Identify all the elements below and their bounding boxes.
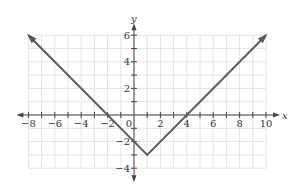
y-tick-label: −2 — [115, 136, 130, 147]
x-axis-label: x — [282, 110, 288, 121]
axes — [16, 23, 280, 182]
x-tick-label: −4 — [74, 118, 89, 129]
function-plot: −8−6−4−20246810−4−2246 x y — [0, 0, 299, 191]
x-tick-label: −6 — [47, 118, 62, 129]
y-tick-label: 4 — [124, 56, 130, 67]
x-tick-label: 10 — [260, 118, 273, 129]
y-axis-up-arrow-icon — [132, 23, 137, 30]
x-tick-label: 8 — [236, 118, 242, 129]
y-tick-label: 6 — [124, 30, 130, 41]
x-tick-label: 4 — [184, 118, 190, 129]
y-tick-label: 2 — [124, 83, 130, 94]
x-tick-label: 0 — [126, 118, 132, 129]
y-tick-label: −4 — [115, 163, 130, 174]
grid — [28, 35, 266, 168]
x-tick-label: 6 — [210, 118, 216, 129]
x-tick-label: 2 — [157, 118, 163, 129]
y-axis-label: y — [130, 13, 137, 24]
x-axis-right-arrow-icon — [273, 113, 280, 118]
x-axis-left-arrow-icon — [16, 113, 23, 118]
x-tick-label: −8 — [21, 118, 36, 129]
y-axis-down-arrow-icon — [132, 175, 137, 182]
